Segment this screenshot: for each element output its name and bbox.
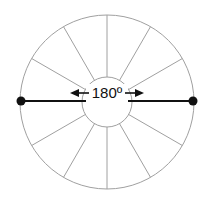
spoke-line — [129, 115, 183, 146]
left-endpoint-dot — [17, 97, 26, 106]
spoke-line — [64, 27, 95, 81]
spoke-line — [32, 115, 86, 146]
spoke-line — [64, 124, 95, 178]
spoke-line — [32, 59, 86, 90]
right-endpoint-dot — [189, 97, 198, 106]
angle-label: 180º — [92, 84, 123, 101]
spoke-line — [129, 59, 183, 90]
spoke-line — [120, 27, 151, 81]
straight-angle-diagram: 180º — [0, 0, 208, 202]
spoke-line — [120, 124, 151, 178]
